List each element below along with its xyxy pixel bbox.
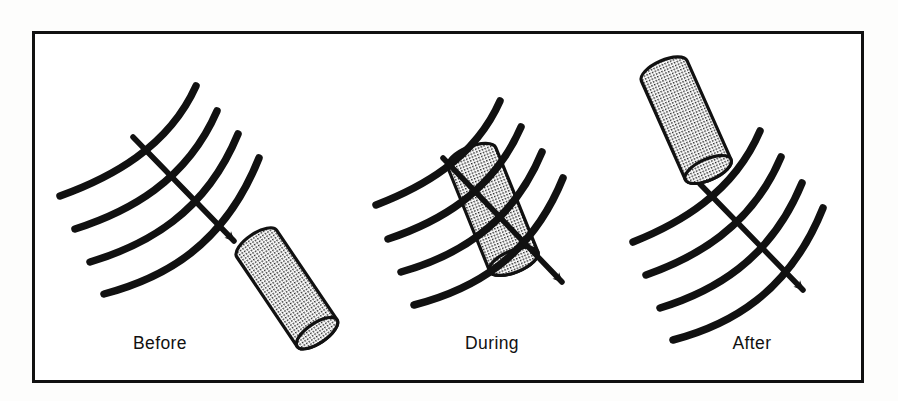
panel-label-after: After <box>733 333 772 353</box>
panel-label-before: Before <box>133 333 187 353</box>
figure-root: Before During After <box>0 0 898 401</box>
panel-label-during: During <box>465 333 519 353</box>
figure-svg: Before During After <box>0 0 898 401</box>
